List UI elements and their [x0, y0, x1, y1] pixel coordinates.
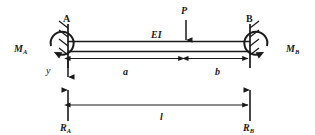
- support-label-b: B: [246, 14, 253, 24]
- support-label-a: A: [63, 14, 70, 24]
- flexural-rigidity-label: EI: [151, 30, 162, 40]
- fixed-support-a: [59, 21, 68, 68]
- dimension-label-b: b: [215, 67, 220, 77]
- reaction-label-a: RA: [60, 123, 71, 133]
- y-axis-label: y: [46, 66, 50, 76]
- point-load-label: P: [181, 6, 187, 16]
- beam-diagram: A B P EI MA MB y a b l RA RB: [0, 0, 315, 135]
- moment-label-b: MB: [286, 44, 299, 54]
- dimension-label-l: l: [160, 112, 163, 122]
- fixed-support-b: [250, 21, 259, 68]
- dimension-label-a: a: [123, 67, 128, 77]
- reaction-label-b: RB: [243, 123, 254, 133]
- beam-member: [68, 42, 250, 52]
- moment-label-a: MA: [14, 44, 27, 54]
